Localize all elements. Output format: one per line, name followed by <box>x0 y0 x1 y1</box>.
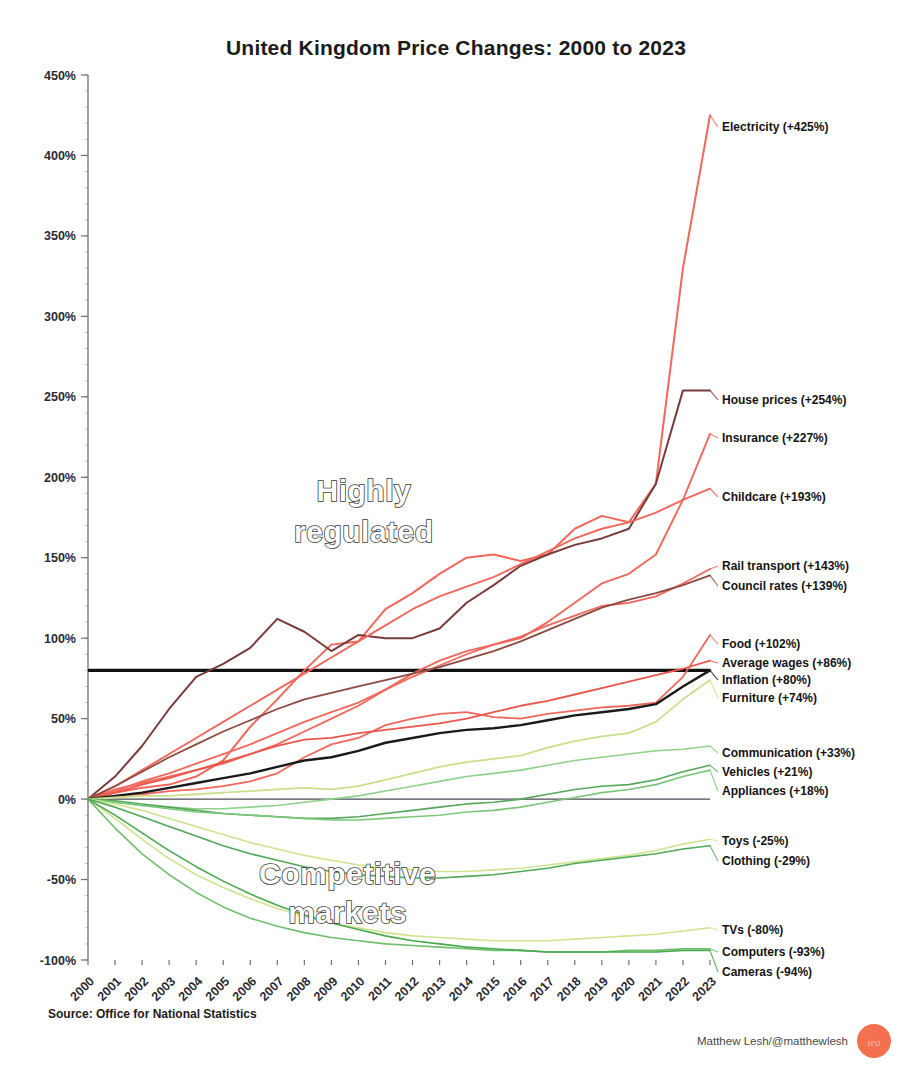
x-axis-tick-label: 2015 <box>473 974 503 1004</box>
x-axis-tick-label: 2000 <box>68 974 98 1004</box>
x-axis-tick-label: 2001 <box>95 974 125 1004</box>
leader-line-rail-transport <box>710 566 718 569</box>
logo-text: iea <box>867 1036 881 1048</box>
x-axis-tick-label: 2006 <box>230 974 260 1004</box>
series-label-insurance: Insurance (+227%) <box>722 431 828 445</box>
leader-line-insurance <box>710 434 718 438</box>
highly-regulated-annotation-line1: Highly <box>317 474 412 507</box>
x-axis-tick-label: 2008 <box>284 974 314 1004</box>
highly-regulated-annotation-line2: regulated <box>294 515 434 548</box>
leader-line-furniture <box>710 680 718 698</box>
leader-line-cameras <box>710 950 718 972</box>
series-labels: Electricity (+425%)House prices (+254%)I… <box>722 120 855 979</box>
x-axis-tick-label: 2004 <box>176 974 206 1004</box>
chart-title: United Kingdom Price Changes: 2000 to 20… <box>226 36 686 59</box>
series-leader-lines <box>710 115 718 972</box>
iea-logo: iea <box>857 1024 891 1058</box>
x-axis-tick-label: 2019 <box>581 974 611 1004</box>
series-label-food: Food (+102%) <box>722 637 800 651</box>
series-label-toys: Toys (-25%) <box>722 834 788 848</box>
series-label-electricity: Electricity (+425%) <box>722 120 828 134</box>
series-label-inflation: Inflation (+80%) <box>722 673 811 687</box>
x-axis-tick-label: 2003 <box>149 974 179 1004</box>
series-label-average-wages: Average wages (+86%) <box>722 656 851 670</box>
price-changes-chart: United Kingdom Price Changes: 2000 to 20… <box>0 0 912 1065</box>
x-axis-tick-label: 2005 <box>203 974 233 1004</box>
series-label-communication: Communication (+33%) <box>722 746 855 760</box>
series-label-vehicles: Vehicles (+21%) <box>722 765 812 779</box>
series-label-house-prices: House prices (+254%) <box>722 393 846 407</box>
leader-line-food <box>710 635 718 644</box>
y-axis-tick-label: -100% <box>40 954 76 968</box>
series-label-cameras: Cameras (-94%) <box>722 965 812 979</box>
leader-line-council-rates <box>710 575 718 586</box>
series-label-council-rates: Council rates (+139%) <box>722 579 847 593</box>
leader-line-appliances <box>710 770 718 791</box>
leader-line-computers <box>710 949 718 952</box>
credit-note: Matthew Lesh/@matthewlesh <box>697 1035 848 1047</box>
x-axis-tick-label: 2002 <box>122 974 152 1004</box>
x-axis-tick-label: 2011 <box>366 974 395 1003</box>
y-axis-tick-label: 250% <box>44 390 76 404</box>
leader-line-average-wages <box>710 661 718 663</box>
x-axis-tick-label: 2018 <box>554 974 584 1004</box>
x-axis-tick-label: 2022 <box>663 974 693 1004</box>
series-label-rail-transport: Rail transport (+143%) <box>722 559 849 573</box>
leader-line-electricity <box>710 115 718 127</box>
series-line-council-rates <box>88 575 710 799</box>
y-axis-tick-label: 0% <box>58 793 76 807</box>
leader-line-vehicles <box>710 765 718 772</box>
leader-line-toys <box>710 839 718 841</box>
series-label-tvs: TVs (-80%) <box>722 923 783 937</box>
source-note: Source: Office for National Statistics <box>48 1007 257 1021</box>
y-axis-tick-label: 400% <box>44 149 76 163</box>
y-axis-tick-label: 150% <box>44 551 76 565</box>
series-label-childcare: Childcare (+193%) <box>722 490 826 504</box>
y-axis-tick-label: 350% <box>44 229 76 243</box>
x-axis-tick-label: 2007 <box>257 974 287 1004</box>
x-axis-tick-label: 2014 <box>446 974 476 1004</box>
competitive-markets-annotation-line2: markets <box>288 896 407 929</box>
leader-line-inflation <box>710 670 718 680</box>
y-axis-tick-label: 300% <box>44 310 76 324</box>
x-axis-tick-label: 2009 <box>311 974 341 1004</box>
y-axis-tick-label: 50% <box>51 712 76 726</box>
chart-annotations: HighlyregulatedCompetitivemarkets <box>259 474 436 929</box>
leader-line-childcare <box>710 489 718 498</box>
x-axis-tick-label: 2021 <box>635 974 665 1004</box>
x-axis-tick-label: 2023 <box>690 974 720 1004</box>
series-line-electricity <box>88 115 710 799</box>
y-axis-tick-label: 200% <box>44 471 76 485</box>
x-axis-tick-label: 2017 <box>527 974 557 1004</box>
leader-line-tvs <box>710 928 718 930</box>
chart-canvas: United Kingdom Price Changes: 2000 to 20… <box>0 0 912 1065</box>
leader-line-house-prices <box>710 390 718 400</box>
series-label-computers: Computers (-93%) <box>722 945 825 959</box>
x-axis-tick-label: 2016 <box>500 974 530 1004</box>
x-axis-tick-label: 2020 <box>608 974 638 1004</box>
y-axis-tick-label: 450% <box>44 69 76 83</box>
series-label-furniture: Furniture (+74%) <box>722 691 817 705</box>
series-label-appliances: Appliances (+18%) <box>722 784 828 798</box>
y-axis-tick-label: -50% <box>47 873 76 887</box>
y-axis-ticks: -100%-50%0%50%100%150%200%250%300%350%40… <box>40 69 88 968</box>
y-axis-tick-label: 100% <box>44 632 76 646</box>
leader-line-communication <box>710 746 718 753</box>
series-label-clothing: Clothing (-29%) <box>722 854 810 868</box>
x-axis-ticks: 2000200120022003200420052006200720082009… <box>68 960 720 1004</box>
leader-line-clothing <box>710 846 718 861</box>
series-line-house-prices <box>88 390 710 799</box>
x-axis-tick-label: 2013 <box>419 974 449 1004</box>
x-axis-tick-label: 2010 <box>338 974 368 1004</box>
competitive-markets-annotation-line1: Competitive <box>259 857 436 890</box>
x-axis-tick-label: 2012 <box>392 974 422 1004</box>
